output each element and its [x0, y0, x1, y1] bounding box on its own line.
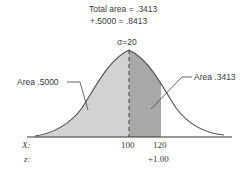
right-area-region [129, 50, 161, 137]
z-axis-label: z: [24, 154, 31, 164]
x-axis-label: X: [22, 140, 31, 150]
left-area-callout: Area .5000 [17, 77, 59, 87]
left-area-region [35, 50, 129, 137]
normal-curve-diagram [0, 0, 251, 177]
x-tick-120: 120 [153, 140, 167, 150]
z-tick-1: +1.00 [148, 154, 169, 164]
x-tick-100: 100 [121, 140, 135, 150]
right-area-callout: Area .3413 [194, 72, 236, 82]
